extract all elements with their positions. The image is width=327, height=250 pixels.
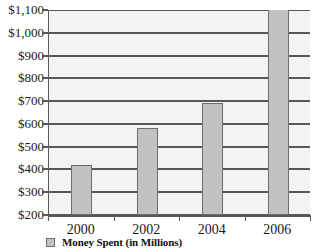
y-axis-tick-mark — [42, 9, 48, 11]
x-axis-tick-label: 2004 — [179, 222, 245, 237]
y-axis-tick-label: $500 — [0, 140, 44, 153]
chart-legend: Money Spent (in Millions) — [46, 236, 182, 248]
x-axis-tick-mark — [114, 215, 115, 221]
y-axis-tick-label: $700 — [0, 94, 44, 107]
y-axis-tick-mark — [42, 191, 48, 193]
y-axis-tick-label: $1,100 — [0, 3, 44, 16]
y-axis-tick-mark — [42, 32, 48, 34]
y-axis-tick-label: $600 — [0, 117, 44, 130]
bar-2004 — [202, 103, 223, 215]
y-axis-tick-label: $400 — [0, 162, 44, 175]
y-axis-tick-mark — [42, 123, 48, 125]
y-axis-tick-label: $900 — [0, 49, 44, 62]
bar-chart: $200$300$400$500$600$700$800$900$1,000$1… — [0, 0, 327, 250]
x-axis-tick-mark — [245, 215, 246, 221]
y-axis-tick-label: $800 — [0, 71, 44, 84]
bar-2006 — [268, 10, 289, 215]
y-axis-tick-mark — [42, 146, 48, 148]
x-axis-tick-mark — [48, 215, 49, 221]
x-axis-tick-mark — [310, 215, 311, 221]
y-axis-tick-label: $1,000 — [0, 26, 44, 39]
bar-2002 — [137, 128, 158, 215]
x-axis-tick-label: 2006 — [244, 222, 310, 237]
y-axis-tick-mark — [42, 77, 48, 79]
y-axis-tick-mark — [42, 168, 48, 170]
y-axis-tick-mark — [42, 55, 48, 57]
y-axis-tick-label: $300 — [0, 185, 44, 198]
y-axis-tick-label: $200 — [0, 208, 44, 221]
plot-area — [48, 10, 310, 215]
y-axis-tick-mark — [42, 100, 48, 102]
legend-label: Money Spent (in Millions) — [62, 236, 182, 248]
x-axis-tick-mark — [179, 215, 180, 221]
bar-2000 — [71, 165, 92, 215]
legend-swatch-icon — [46, 238, 55, 247]
